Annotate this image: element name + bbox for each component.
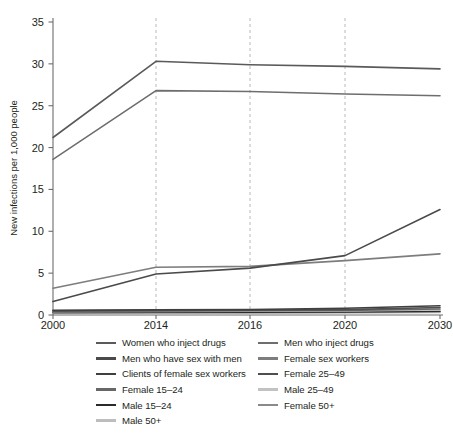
line-chart: New infections per 1,000 people 05101520… [0, 0, 453, 436]
legend-label: Female 50+ [284, 400, 334, 411]
legend-swatch-icon [96, 404, 116, 407]
legend-swatch-icon [96, 388, 116, 391]
x-tick-label: 2030 [428, 319, 452, 330]
legend-label: Male 25–49 [284, 384, 334, 395]
y-tick-label: 25 [32, 100, 44, 112]
legend-label: Women who inject drugs [122, 337, 226, 348]
series-line [53, 91, 440, 160]
legend-item[interactable]: Women who inject drugs [96, 335, 261, 351]
x-tick-label: 2020 [333, 319, 357, 330]
y-tick-label: 10 [32, 225, 44, 237]
y-axis-title: New infections per 1,000 people [8, 100, 19, 236]
legend-swatch-icon [258, 373, 278, 376]
legend-swatch-icon [96, 342, 116, 345]
legend-label: Female 25–49 [284, 368, 345, 379]
legend-label: Male 15–24 [122, 400, 172, 411]
legend-item[interactable]: Female 25–49 [258, 366, 448, 382]
legend-item[interactable]: Men who inject drugs [258, 335, 448, 351]
legend-swatch-icon [258, 342, 278, 345]
series-line [53, 210, 440, 302]
legend-label: Clients of female sex workers [122, 368, 246, 379]
legend-item[interactable]: Male 50+ [96, 413, 261, 429]
legend-label: Female sex workers [284, 353, 369, 364]
plot-area: New infections per 1,000 people 05101520… [0, 0, 453, 330]
legend-swatch-icon [96, 373, 116, 376]
legend-item[interactable]: Male 15–24 [96, 397, 261, 413]
y-tick-label: 30 [32, 58, 44, 70]
legend-item[interactable]: Female 15–24 [96, 382, 261, 398]
legend-column-right: Men who inject drugsFemale sex workersFe… [258, 335, 448, 413]
legend-item[interactable]: Female sex workers [258, 351, 448, 367]
legend-label: Female 15–24 [122, 384, 183, 395]
y-tick-label: 20 [32, 142, 44, 154]
legend-item[interactable]: Clients of female sex workers [96, 366, 261, 382]
y-tick-label: 35 [32, 16, 44, 28]
x-tick-label: 2016 [238, 319, 262, 330]
chart-legend: Women who inject drugsMen who have sex w… [0, 330, 453, 436]
series-lines [53, 61, 440, 313]
legend-item[interactable]: Men who have sex with men [96, 351, 261, 367]
legend-swatch-icon [258, 404, 278, 407]
series-line [53, 254, 440, 288]
legend-swatch-icon [96, 357, 116, 360]
legend-swatch-icon [258, 357, 278, 360]
legend-column-left: Women who inject drugsMen who have sex w… [96, 335, 261, 429]
y-tick-label: 15 [32, 183, 44, 195]
chart-svg: New infections per 1,000 people 05101520… [0, 0, 453, 330]
legend-label: Men who inject drugs [284, 337, 374, 348]
legend-item[interactable]: Female 50+ [258, 397, 448, 413]
legend-swatch-icon [96, 419, 116, 422]
legend-label: Men who have sex with men [122, 353, 242, 364]
y-tick-label: 5 [38, 267, 44, 279]
y-axis-tick-labels: 05101520253035 [32, 16, 44, 321]
x-tick-label: 2014 [144, 319, 168, 330]
legend-swatch-icon [258, 388, 278, 391]
legend-label: Male 50+ [122, 415, 161, 426]
series-line [53, 61, 440, 137]
x-axis-tick-labels: 20002014201620202030 [41, 315, 452, 330]
x-tick-label: 2000 [41, 319, 65, 330]
legend-item[interactable]: Male 25–49 [258, 382, 448, 398]
y-axis-ticks [49, 22, 54, 315]
